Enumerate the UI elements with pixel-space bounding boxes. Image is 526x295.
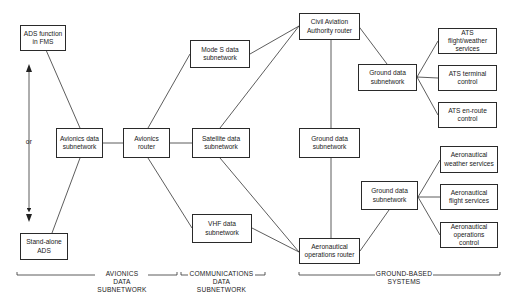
section-ground-label: GROUND-BASED SYSTEMS [375, 270, 433, 286]
node-mode-s-data-subnetwork: Mode S data subnetwork [190, 40, 250, 68]
node-label: Ground data subnetwork [368, 187, 412, 203]
node-label: Ground data subnetwork [366, 69, 410, 85]
node-ads-function-fms: ADS function in FMS [20, 25, 66, 51]
section-avionics-label: AVIONICS DATA SUBNETWORK [96, 270, 148, 294]
node-avionics-router: Avionics router [123, 128, 170, 158]
node-label: Ground data subnetwork [308, 135, 352, 151]
node-label: Aeronautical flight services [447, 189, 491, 205]
section-communications-label: COMMUNICATIONS DATA SUBNETWORK [188, 270, 255, 294]
node-caa-router: Civil Aviation Authority router [299, 13, 360, 40]
node-label: Aeronautical weather services [443, 151, 495, 167]
node-label: Mode S data subnetwork [196, 46, 244, 62]
node-aero-weather-services: Aeronautical weather services [440, 146, 498, 173]
node-label: ADS function in FMS [23, 30, 63, 46]
node-satellite-data-subnetwork: Satellite data subnetwork [192, 128, 250, 158]
node-label: Avionics data subnetwork [59, 135, 100, 151]
node-standalone-ads: Stand-alone ADS [20, 233, 68, 260]
node-ground-data-subnetwork-mid: Ground data subnetwork [299, 128, 360, 158]
node-label: Aeronautical operations control [443, 223, 495, 248]
node-ground-data-subnetwork-bottom: Ground data subnetwork [361, 181, 418, 210]
node-ats-flight-weather: ATS flight/weather services [438, 28, 497, 54]
node-label: VHF data subnetwork [198, 220, 246, 236]
or-label: or [20, 138, 38, 146]
node-ats-enroute-control: ATS en-route control [438, 102, 497, 128]
network-diagram: ADS function in FMS Stand-alone ADS Avio… [0, 0, 526, 295]
node-aero-ops-control: Aeronautical operations control [440, 222, 498, 248]
node-label: Avionics router [132, 135, 162, 151]
node-aero-flight-services: Aeronautical flight services [440, 184, 498, 210]
node-label: Satellite data subnetwork [196, 135, 246, 151]
node-avionics-data-subnetwork: Avionics data subnetwork [56, 128, 103, 158]
node-label: Aeronautical operations router [302, 243, 357, 259]
node-aero-ops-router: Aeronautical operations router [299, 238, 360, 264]
node-vhf-data-subnetwork: VHF data subnetwork [192, 214, 252, 243]
node-label: Civil Aviation Authority router [302, 18, 357, 34]
node-label: Stand-alone ADS [23, 238, 65, 254]
node-ats-terminal-control: ATS terminal control [438, 65, 497, 91]
node-label: ATS en-route control [448, 107, 488, 123]
node-ground-data-subnetwork-top: Ground data subnetwork [358, 64, 417, 91]
node-label: ATS terminal control [446, 70, 490, 86]
node-label: ATS flight/weather services [441, 29, 494, 54]
